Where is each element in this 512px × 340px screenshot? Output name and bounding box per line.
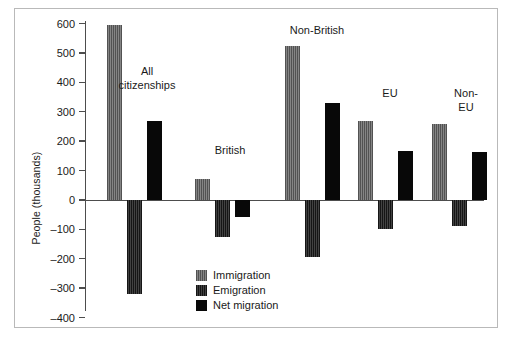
group-label-eu: EU [382,87,397,101]
y-tick: 300 [3,105,85,119]
y-tick-label: 200 [57,134,75,148]
bar-emigration-non-eu [452,200,467,226]
y-tick-mark [79,170,85,171]
y-tick-mark [79,199,85,200]
bar-net-migration-eu [398,151,413,200]
y-tick-label: –100 [51,222,75,236]
y-tick: 500 [3,46,85,60]
bar-net-migration-non-eu [472,152,487,200]
legend-item-net-migration: Net migration [196,298,278,312]
y-tick: 100 [3,164,85,178]
bar-net-migration-all-citizenships [147,121,162,200]
legend-swatch-immigration [196,270,207,281]
y-tick-label: 500 [57,46,75,60]
y-tick-mark [79,82,85,83]
y-tick-mark [79,111,85,112]
y-tick-mark [79,287,85,288]
y-tick: –300 [3,281,85,295]
chart-legend: ImmigrationEmigrationNet migration [196,268,278,312]
y-tick-mark [79,258,85,259]
bar-emigration-non-british [305,200,320,257]
legend-label: Net migration [213,299,278,312]
legend-item-immigration: Immigration [196,268,278,282]
legend-item-emigration: Emigration [196,283,278,297]
group-label-non-eu: Non-EU [454,87,478,114]
bar-emigration-all-citizenships [127,200,142,294]
bar-immigration-eu [358,121,373,200]
y-tick: –100 [3,222,85,236]
y-tick: 400 [3,75,85,89]
y-tick: 600 [3,17,85,31]
y-tick: –400 [3,311,85,325]
chart-figure: People (thousands) 6005004003002001000–1… [0,0,512,340]
y-tick-mark [79,140,85,141]
y-tick: 200 [3,134,85,148]
y-axis-line [85,21,86,311]
y-tick-label: –400 [51,311,75,325]
bar-immigration-non-british [285,46,300,200]
group-label-british: British [215,144,246,158]
legend-label: Emigration [213,284,266,297]
bar-emigration-eu [378,200,393,229]
y-tick-label: 400 [57,75,75,89]
legend-swatch-emigration [196,285,207,296]
y-tick: –200 [3,252,85,266]
plot-area: 6005004003002001000–100–200–300–400 All … [85,21,484,311]
y-tick-label: –300 [51,281,75,295]
y-tick-label: 0 [69,193,75,207]
group-label-all-citizenships: All citizenships [119,65,176,92]
legend-label: Immigration [213,269,270,282]
y-tick-label: 100 [57,164,75,178]
zero-baseline [85,200,484,201]
bar-net-migration-non-british [325,103,340,200]
y-tick-label: 600 [57,17,75,31]
y-tick: 0 [3,193,85,207]
legend-swatch-net-migration [196,300,207,311]
bar-immigration-non-eu [432,124,447,200]
y-tick-label: 300 [57,105,75,119]
bar-emigration-british [215,200,230,237]
bar-immigration-all-citizenships [107,25,122,200]
y-tick-label: –200 [51,252,75,266]
group-label-non-british: Non-British [290,24,344,38]
y-tick-mark [79,317,85,318]
y-tick-mark [79,23,85,24]
y-tick-mark [79,52,85,53]
y-tick-mark [79,229,85,230]
bar-immigration-british [195,179,210,200]
bar-net-migration-british [235,200,250,217]
